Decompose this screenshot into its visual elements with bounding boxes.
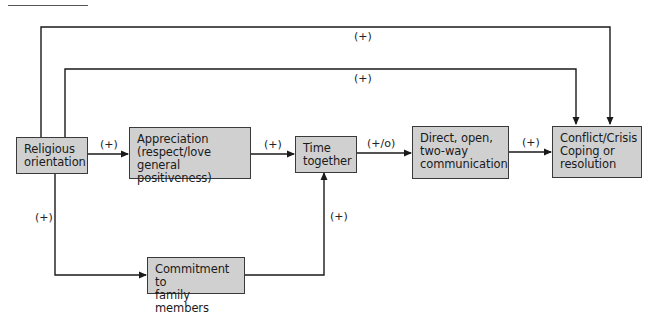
node-religious-orientation: Religious orientation (16, 137, 88, 174)
edge-label-commitment-time: (+) (330, 210, 348, 223)
edge-religious-conflict-outer (41, 27, 610, 137)
edge-label-religious-appreciation: (+) (100, 138, 118, 151)
edge-religious-commitment (55, 173, 146, 275)
node-text: Commitment to (155, 263, 237, 289)
node-appreciation: Appreciation (respect/love general posit… (129, 127, 251, 179)
node-text: resolution (560, 158, 634, 171)
edge-label-religious-commitment: (+) (35, 211, 53, 224)
edge-label-inner: (+) (354, 72, 372, 85)
node-time-together: Time together (295, 136, 357, 173)
edge-label-appreciation-time: (+) (264, 138, 282, 151)
node-text: general positiveness) (137, 159, 243, 185)
node-commitment: Commitment to family members (147, 257, 245, 294)
node-text: together (303, 155, 349, 168)
node-text: family members (155, 289, 237, 315)
node-text: orientation (24, 156, 80, 169)
node-communication: Direct, open, two-way communication (412, 126, 509, 179)
edge-label-communication-conflict: (+) (522, 136, 540, 149)
edge-label-outer: (+) (354, 30, 372, 43)
edge-commitment-time (245, 173, 324, 275)
node-conflict-crisis: Conflict/Crisis Coping or resolution (552, 126, 642, 178)
edge-label-time-communication: (+/o) (367, 137, 395, 150)
node-text: communication (420, 158, 501, 171)
